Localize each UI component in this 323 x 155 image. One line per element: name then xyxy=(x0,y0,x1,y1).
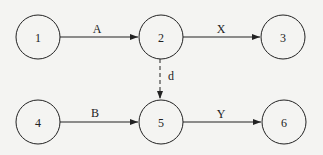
svg-text:5: 5 xyxy=(158,116,164,130)
svg-text:3: 3 xyxy=(280,31,286,45)
edge-label-d: d xyxy=(168,69,174,83)
edge-label-y: Y xyxy=(217,107,226,121)
node-3: 3 xyxy=(261,15,305,59)
svg-text:2: 2 xyxy=(158,31,164,45)
node-4: 4 xyxy=(16,100,60,144)
svg-text:1: 1 xyxy=(35,31,41,45)
svg-text:4: 4 xyxy=(35,116,41,130)
node-1: 1 xyxy=(16,15,60,59)
edge-2-3: X xyxy=(183,22,260,37)
edge-label-a: A xyxy=(93,22,102,36)
node-5: 5 xyxy=(139,100,183,144)
edge-label-b: B xyxy=(91,106,99,120)
node-2: 2 xyxy=(139,15,183,59)
svg-text:6: 6 xyxy=(281,116,287,130)
edge-1-2: A xyxy=(60,22,138,37)
edge-2-5: d xyxy=(160,59,174,99)
edge-5-6: Y xyxy=(183,107,261,122)
edge-label-x: X xyxy=(217,22,226,36)
network-diagram: A X d B Y 1 2 3 4 5 6 xyxy=(0,0,323,155)
edge-4-5: B xyxy=(60,106,138,122)
node-6: 6 xyxy=(262,100,306,144)
